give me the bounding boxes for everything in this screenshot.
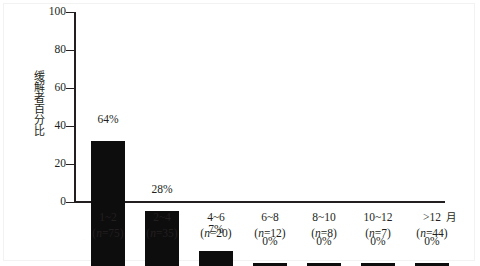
y-tick-mark [66,126,74,127]
y-tick-mark [66,164,74,165]
bar-value-label: 64% [82,113,134,125]
bar [91,141,125,266]
y-tick-mark [66,12,74,13]
bar [199,251,233,266]
bar-value-label: 28% [136,183,188,195]
x-tick-count: (n=44) [396,226,468,242]
y-tick-label: 100 [20,6,66,18]
y-tick-label: 60 [20,82,66,94]
y-axis-line [74,12,76,203]
y-tick-mark [66,88,74,89]
y-tick-label: 40 [20,120,66,132]
y-tick-label: 0 [20,196,66,208]
x-tick-range: >12 [396,210,468,226]
y-axis-tick-labels: 100 80 60 40 20 0 [14,0,66,266]
bar-chart-figure: 缓解者百分比 100 80 60 40 20 0 64% 28% 7% [0,0,480,266]
x-tick-group: >12 (n=44) [396,210,468,241]
x-axis-unit-label: 月 [446,211,456,224]
y-tick-label: 20 [20,158,66,170]
y-tick-label: 80 [20,44,66,56]
y-tick-mark [66,50,74,51]
y-tick-mark [66,202,74,203]
